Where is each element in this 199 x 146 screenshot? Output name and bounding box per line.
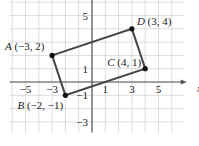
y-tick-label: 1 [83,63,89,75]
y-tick-label: −1 [76,89,88,101]
x-tick-label: −5 [20,83,32,95]
point-label-b: B (−2, −1) [17,99,63,112]
point-c [143,66,148,71]
point-a [50,53,55,58]
x-axis-arrow-icon [181,80,187,85]
x-tick-label: 1 [103,83,109,95]
point-label-a: A (−3, 2) [4,40,45,53]
point-label-c: C (4, 1) [107,56,141,69]
x-axis-label: x [196,82,199,94]
coordinate-plane: x A (−3, 2)B (−2, −1)C (4, 1)D (3, 4) −5… [0,0,199,146]
y-tick-label: 5 [83,10,89,22]
x-tick-label: 5 [156,83,162,95]
point-label-d: D (3, 4) [136,15,172,28]
point-d [129,26,134,31]
point-b [63,93,68,98]
x-tick-label: 3 [129,83,135,95]
y-tick-label: −3 [76,116,88,128]
x-tick-label: −3 [46,83,58,95]
